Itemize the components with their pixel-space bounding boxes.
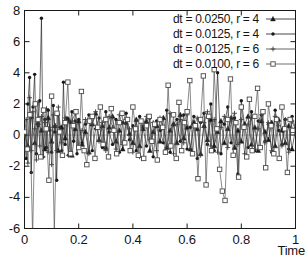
chart-figure: 86420-2-4-6 00.20.40.60.81 Time dt = 0.0… — [0, 0, 308, 265]
legend-item: dt = 0.0125, r = 6 — [152, 42, 298, 56]
legend-sample-plus — [264, 43, 298, 55]
x-tick-label: 0.8 — [221, 232, 261, 247]
y-tick-label: 8 — [0, 3, 20, 18]
chart-legend: dt = 0.0250, r = 4dt = 0.0125, r = 4dt =… — [152, 12, 298, 72]
legend-sample-filled-triangle — [264, 13, 298, 25]
y-tick-label: 4 — [0, 65, 20, 80]
y-tick-label: -4 — [0, 189, 20, 204]
caption-strip — [0, 259, 308, 265]
legend-item: dt = 0.0100, r = 6 — [152, 57, 298, 71]
y-tick-label: -2 — [0, 158, 20, 173]
y-tick-label: 6 — [0, 34, 20, 49]
legend-sample-filled-circle — [264, 28, 298, 40]
x-tick-label: 0.4 — [113, 232, 153, 247]
legend-label: dt = 0.0125, r = 4 — [173, 27, 259, 41]
legend-item: dt = 0.0250, r = 4 — [152, 12, 298, 26]
legend-sample-open-square — [264, 58, 298, 70]
y-tick-label: 2 — [0, 96, 20, 111]
x-tick-label: 0.2 — [59, 232, 99, 247]
y-tick-label: 0 — [0, 127, 20, 142]
legend-label: dt = 0.0100, r = 6 — [173, 57, 259, 71]
legend-label: dt = 0.0125, r = 6 — [173, 42, 259, 56]
x-axis-title: Time — [277, 243, 305, 258]
legend-item: dt = 0.0125, r = 4 — [152, 27, 298, 41]
legend-label: dt = 0.0250, r = 4 — [173, 12, 259, 26]
x-tick-label: 0.6 — [167, 232, 207, 247]
x-tick-label: 0 — [5, 232, 45, 247]
